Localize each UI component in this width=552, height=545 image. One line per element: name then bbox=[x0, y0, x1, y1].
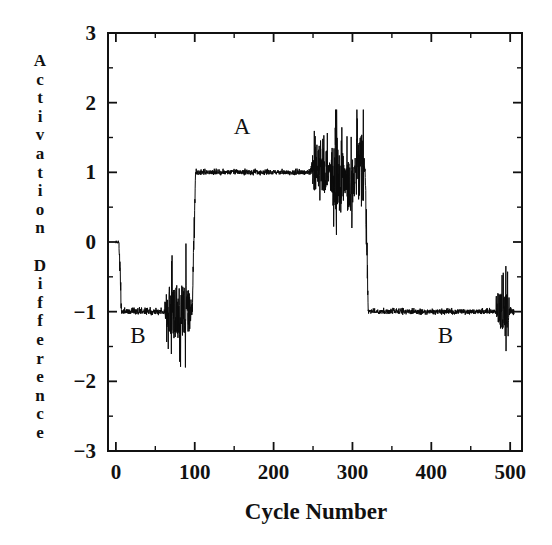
y-axis-title-letter: t bbox=[37, 163, 43, 182]
annotation-b-right: B bbox=[438, 323, 453, 348]
y-tick-label: −3 bbox=[74, 439, 96, 463]
y-axis-title-letter: i bbox=[38, 181, 43, 200]
x-tick-label: 0 bbox=[111, 460, 122, 484]
x-tick-label: 300 bbox=[337, 460, 369, 484]
y-tick-label: −1 bbox=[74, 300, 96, 324]
annotation-b-left: B bbox=[130, 323, 145, 348]
y-axis-title-letter: i bbox=[38, 274, 43, 293]
y-axis-title-letter: e bbox=[36, 423, 44, 442]
y-axis-title-letter: r bbox=[36, 349, 44, 368]
y-axis-title-letter: v bbox=[36, 125, 45, 144]
y-tick-label: 0 bbox=[86, 230, 97, 254]
y-axis-title-letter: f bbox=[37, 311, 43, 330]
y-axis-title-letter: c bbox=[36, 404, 44, 423]
y-tick-label: 1 bbox=[86, 160, 97, 184]
y-tick-label: 3 bbox=[86, 21, 97, 45]
chart-figure: 0100200300400500 3210−1−2−3 ABB Activati… bbox=[0, 0, 552, 545]
y-tick-label: −2 bbox=[74, 369, 96, 393]
x-tick-label: 100 bbox=[179, 460, 211, 484]
x-axis-title: Cycle Number bbox=[245, 499, 387, 524]
x-tick-label: 200 bbox=[258, 460, 290, 484]
y-axis-title-letter: A bbox=[34, 51, 47, 70]
y-axis-title-letter: f bbox=[37, 293, 43, 312]
y-axis-title-letter: a bbox=[36, 144, 45, 163]
x-tick-label: 500 bbox=[494, 460, 526, 484]
y-axis-title-letter: o bbox=[36, 200, 45, 219]
y-axis-title-letter: i bbox=[38, 107, 43, 126]
y-axis-title-letter: e bbox=[36, 367, 44, 386]
y-axis-title-letter: D bbox=[34, 256, 46, 275]
y-axis-title-letter: t bbox=[37, 88, 43, 107]
y-axis-title-letter: e bbox=[36, 330, 44, 349]
y-axis-title-letter: n bbox=[35, 218, 45, 237]
y-axis-title-letter: c bbox=[36, 70, 44, 89]
y-tick-label: 2 bbox=[86, 91, 97, 115]
x-tick-label: 400 bbox=[416, 460, 448, 484]
y-axis-title-letter: n bbox=[35, 386, 45, 405]
annotation-a: A bbox=[234, 114, 251, 139]
